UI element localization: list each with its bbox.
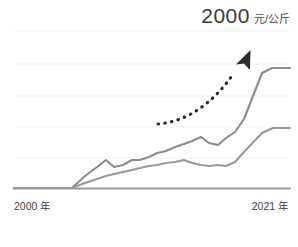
x-axis-label-start: 2000 年 (14, 198, 50, 213)
chart-container: 2000 元/公斤 2000 年 2021 年 (0, 0, 298, 247)
series-line-upper (14, 68, 290, 188)
gridlines (14, 31, 290, 158)
x-axis-labels: 2000 年 2021 年 (0, 198, 298, 220)
growth-trend-arrow (158, 47, 257, 124)
x-axis-label-end: 2021 年 (252, 198, 288, 213)
